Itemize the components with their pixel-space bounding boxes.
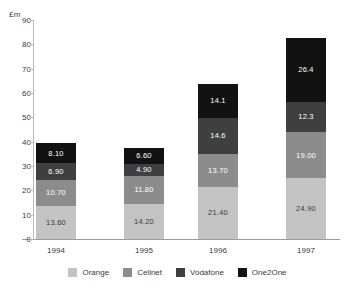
legend-label: Orange (82, 268, 109, 277)
legend-swatch-icon (68, 268, 77, 277)
legend-label: Cellnet (137, 268, 162, 277)
bar-segment[interactable]: 6.60 (124, 148, 164, 164)
bar-group[interactable]: 6.604.9011.8014.20 (124, 148, 164, 239)
bar-group[interactable]: 8.106.9010.7013.60 (36, 143, 76, 239)
x-axis-line (22, 239, 340, 240)
y-axis-tick-label: 80 (0, 40, 31, 49)
bar-segment[interactable]: 12.3 (286, 102, 326, 132)
bar-segment-value-label: 14.1 (210, 97, 225, 105)
bar-segment-value-label: 14.6 (210, 132, 225, 140)
bar-segment-value-label: 4.90 (136, 166, 151, 174)
bar-segment-value-label: 14.20 (134, 218, 154, 226)
bar-segment[interactable]: 14.20 (124, 204, 164, 239)
legend-swatch-icon (176, 268, 185, 277)
bar-segment[interactable]: 21.40 (198, 187, 238, 239)
y-axis-tick-label: 30 (0, 162, 31, 171)
bar-segment[interactable]: 14.6 (198, 118, 238, 154)
y-axis-tick-mark (30, 239, 34, 240)
legend-item[interactable]: Cellnet (123, 268, 162, 277)
legend-label: One2One (252, 268, 287, 277)
bar-segment[interactable]: 13.70 (198, 154, 238, 187)
y-axis-tick-label: 20 (0, 186, 31, 195)
bar-segment-value-label: 12.3 (298, 113, 313, 121)
bar-segment[interactable]: 19.00 (286, 132, 326, 178)
bar-segment-value-label: 19.00 (296, 152, 316, 160)
bar-segment-value-label: 8.10 (48, 150, 63, 158)
bar-segment-value-label: 6.60 (136, 152, 151, 160)
bar-segment[interactable]: 11.80 (124, 176, 164, 205)
x-axis-tick-label: 1995 (114, 246, 174, 255)
chart-legend: OrangeCellnetVodafoneOne2One (0, 268, 355, 277)
plot-area: 8.106.9010.7013.606.604.9011.8014.2014.1… (34, 20, 340, 239)
bar-segment-value-label: 13.60 (46, 219, 66, 227)
bar-segment[interactable]: 6.90 (36, 163, 76, 180)
legend-swatch-icon (123, 268, 132, 277)
y-axis-tick-label: 10 (0, 210, 31, 219)
y-axis-tick-label: 90 (0, 16, 31, 25)
bar-segment-value-label: 13.70 (208, 167, 228, 175)
bar-segment-value-label: 10.70 (46, 189, 66, 197)
bar-group[interactable]: 14.114.613.7021.40 (198, 84, 238, 239)
bar-segment[interactable]: 4.90 (124, 164, 164, 176)
legend-swatch-icon (238, 268, 247, 277)
legend-item[interactable]: Orange (68, 268, 109, 277)
bar-segment-value-label: 26.4 (298, 66, 313, 74)
x-axis-tick-label: 1996 (188, 246, 248, 255)
y-axis-tick-label: 40 (0, 137, 31, 146)
y-axis-tick-label: 0 (0, 235, 31, 244)
y-axis-tick-label: 50 (0, 113, 31, 122)
bar-segment[interactable]: 24.90 (286, 178, 326, 239)
stacked-bar-chart: £m 0102030405060708090 8.106.9010.7013.6… (0, 0, 355, 300)
legend-item[interactable]: One2One (238, 268, 287, 277)
bar-segment[interactable]: 8.10 (36, 143, 76, 163)
bar-segment[interactable]: 10.70 (36, 180, 76, 206)
bar-segment[interactable]: 26.4 (286, 38, 326, 102)
legend-label: Vodafone (190, 268, 224, 277)
bar-segment-value-label: 6.90 (48, 168, 63, 176)
bar-segment[interactable]: 14.1 (198, 84, 238, 118)
bar-segment-value-label: 24.90 (296, 205, 316, 213)
bar-segment[interactable]: 13.60 (36, 206, 76, 239)
y-axis-tick-label: 70 (0, 64, 31, 73)
bar-segment-value-label: 21.40 (208, 209, 228, 217)
bar-group[interactable]: 26.412.319.0024.90 (286, 38, 326, 239)
x-axis-tick-label: 1994 (26, 246, 86, 255)
y-axis-tick-label: 60 (0, 89, 31, 98)
x-axis-tick-label: 1997 (276, 246, 336, 255)
legend-item[interactable]: Vodafone (176, 268, 224, 277)
bar-segment-value-label: 11.80 (134, 186, 153, 194)
